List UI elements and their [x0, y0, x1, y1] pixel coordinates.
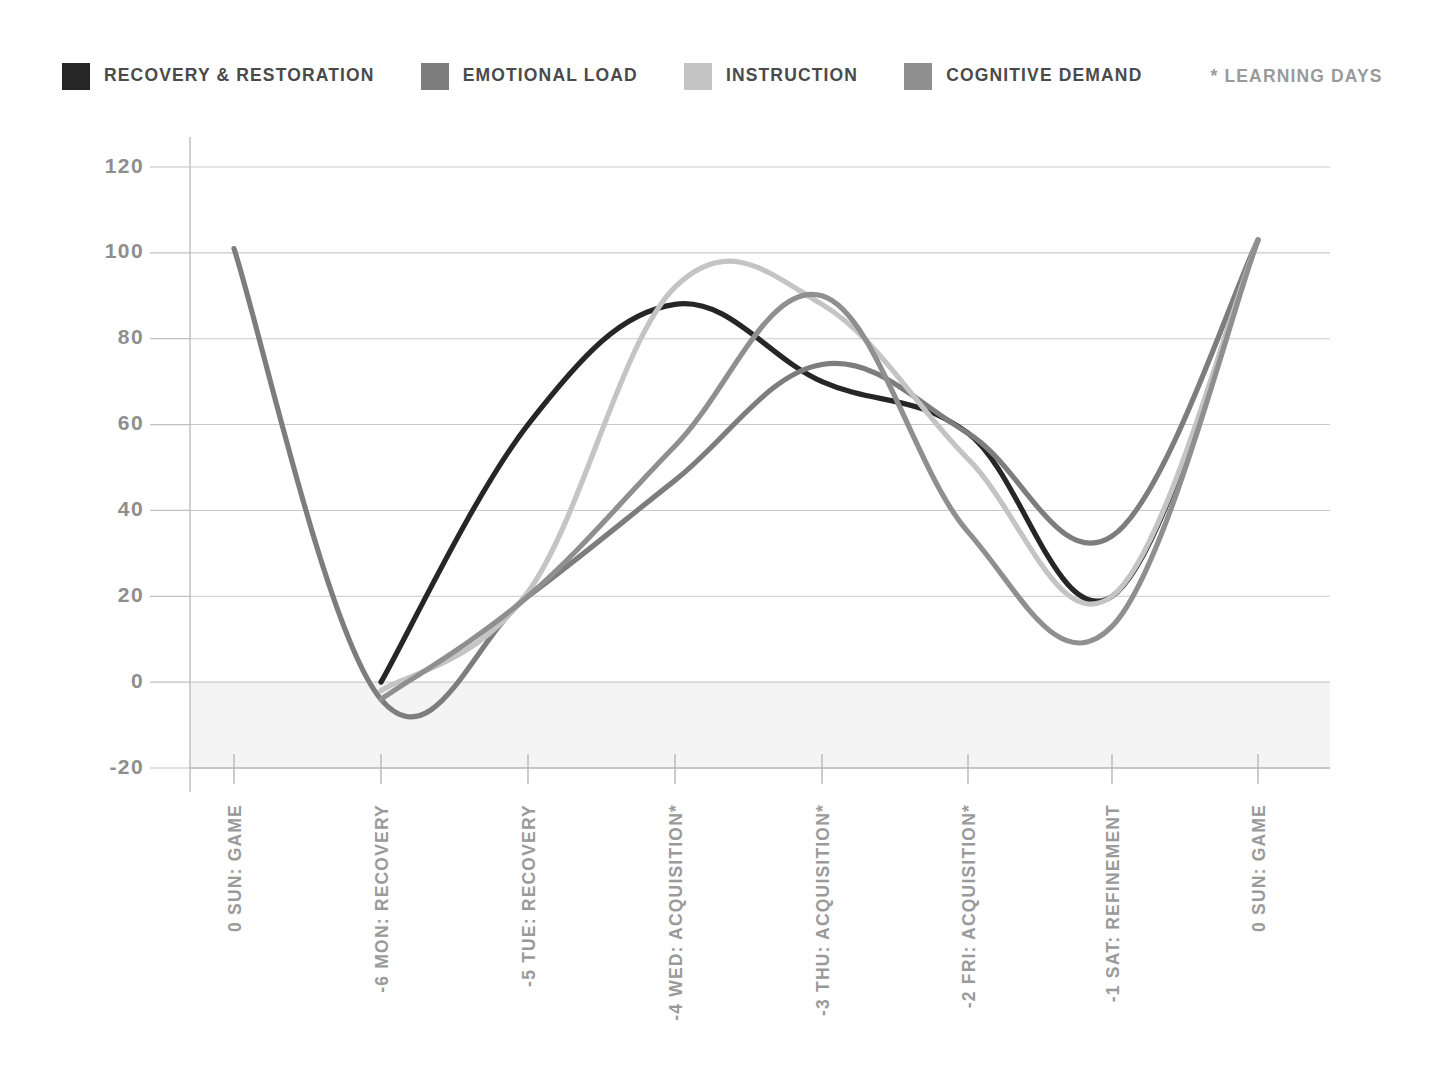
- line-chart-svg: 120100806040200-20 0 SUN: GAME-6 MON: RE…: [0, 0, 1434, 1074]
- y-axis-tick-label: 20: [118, 583, 144, 606]
- y-axis-tick-label: 60: [118, 411, 144, 434]
- x-axis-tick-label: -3 THU: ACQUISITION*: [813, 804, 833, 1016]
- series-line-cognitive-demand: [381, 240, 1258, 699]
- series-line-instruction: [381, 240, 1258, 691]
- y-axis-tick-label: -20: [109, 755, 144, 778]
- x-axis-tick-label: -1 SAT: REFINEMENT: [1103, 804, 1123, 1002]
- chart-plot-area: 120100806040200-20 0 SUN: GAME-6 MON: RE…: [0, 0, 1434, 1074]
- y-tick-dashes: [150, 167, 190, 768]
- x-axis-tick-label: 0 SUN: GAME: [1249, 804, 1269, 932]
- x-axis-tick-label: -4 WED: ACQUISITION*: [666, 804, 686, 1021]
- y-axis-tick-label: 120: [105, 154, 144, 177]
- y-axis-labels: 120100806040200-20: [105, 154, 144, 778]
- series-line-recovery-restoration: [381, 240, 1258, 682]
- series-line-emotional-load: [234, 240, 1258, 717]
- x-axis-tick-label: 0 SUN: GAME: [225, 804, 245, 932]
- y-axis-tick-label: 80: [118, 325, 144, 348]
- x-axis-labels: 0 SUN: GAME-6 MON: RECOVERY-5 TUE: RECOV…: [225, 804, 1269, 1021]
- x-axis-tick-label: -5 TUE: RECOVERY: [519, 804, 539, 987]
- y-axis-tick-label: 40: [118, 497, 144, 520]
- x-axis-tick-label: -6 MON: RECOVERY: [372, 804, 392, 993]
- x-axis-tick-label: -2 FRI: ACQUISITION*: [959, 804, 979, 1008]
- y-axis-tick-label: 0: [131, 669, 144, 692]
- below-zero-shading: [190, 682, 1330, 768]
- data-series-group: [234, 240, 1258, 717]
- y-axis-tick-label: 100: [105, 239, 144, 262]
